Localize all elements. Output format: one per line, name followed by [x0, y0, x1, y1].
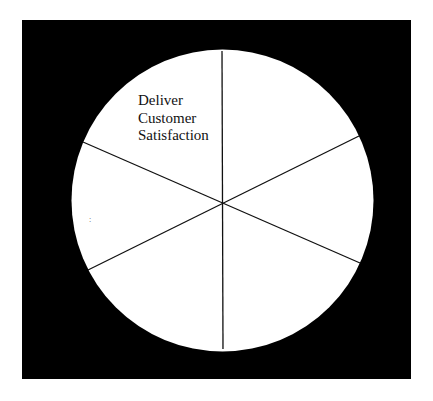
label-line-2: Customer [138, 110, 209, 128]
stray-mark: : [89, 215, 91, 224]
segment-label-deliver-customer-satisfaction: Deliver Customer Satisfaction [138, 92, 209, 145]
six-segment-wheel [0, 0, 433, 401]
label-line-1: Deliver [138, 92, 209, 110]
label-line-3: Satisfaction [138, 127, 209, 145]
